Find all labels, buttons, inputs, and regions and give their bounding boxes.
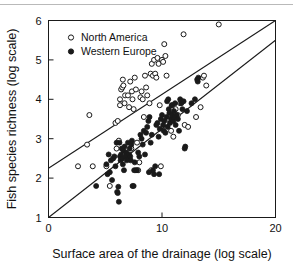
data-point-open bbox=[130, 97, 135, 102]
data-point-filled bbox=[184, 109, 189, 114]
y-tick-label: 2 bbox=[35, 172, 41, 184]
data-point-open bbox=[107, 183, 112, 188]
data-point-filled bbox=[139, 136, 144, 141]
data-point-open bbox=[118, 97, 123, 102]
y-tick-label: 4 bbox=[35, 93, 41, 105]
data-point-filled bbox=[142, 152, 147, 157]
y-axis-title: Fish species richness (log scale) bbox=[5, 29, 19, 210]
data-point-filled bbox=[163, 130, 168, 135]
data-point-filled bbox=[106, 152, 111, 157]
data-point-open bbox=[162, 42, 167, 47]
data-point-open bbox=[144, 85, 149, 90]
x-axis-tick-labels: 01020 bbox=[45, 222, 281, 234]
scatter-plot-svg: 123456 01020 North America Western Europ… bbox=[0, 0, 293, 267]
data-point-open bbox=[76, 164, 81, 169]
data-point-open bbox=[120, 77, 125, 82]
data-point-open bbox=[142, 73, 147, 78]
data-point-filled bbox=[148, 140, 153, 145]
data-point-filled bbox=[121, 168, 126, 173]
figure-container: 123456 01020 North America Western Europ… bbox=[0, 0, 293, 267]
data-point-open bbox=[163, 53, 168, 58]
legend-marker-filled-circle-icon bbox=[68, 49, 73, 54]
data-point-open bbox=[131, 107, 136, 112]
data-point-open bbox=[181, 32, 186, 37]
data-point-filled bbox=[165, 99, 170, 104]
data-point-filled bbox=[129, 138, 134, 143]
data-point-open bbox=[135, 140, 140, 145]
data-point-filled bbox=[144, 130, 149, 135]
data-point-open bbox=[145, 93, 150, 98]
data-point-filled bbox=[120, 162, 125, 167]
data-point-filled bbox=[149, 132, 154, 137]
data-point-filled bbox=[94, 183, 99, 188]
y-tick-label: 3 bbox=[35, 133, 41, 145]
data-point-filled bbox=[145, 124, 150, 129]
data-point-filled bbox=[147, 115, 152, 120]
data-point-open bbox=[115, 118, 120, 123]
x-axis-title: Surface area of the drainage (log scale) bbox=[52, 247, 272, 261]
data-point-filled bbox=[175, 117, 180, 122]
data-point-filled bbox=[173, 122, 178, 127]
data-point-open bbox=[87, 113, 92, 118]
legend-label-western-europe: Western Europe bbox=[81, 45, 157, 57]
data-point-open bbox=[90, 164, 95, 169]
data-point-open bbox=[128, 79, 133, 84]
data-point-open bbox=[198, 105, 203, 110]
data-point-open bbox=[171, 134, 176, 139]
data-point-filled bbox=[196, 75, 201, 80]
data-point-open bbox=[122, 101, 127, 106]
data-point-filled bbox=[157, 172, 162, 177]
data-point-filled bbox=[137, 154, 142, 159]
data-point-filled bbox=[153, 164, 158, 169]
data-point-open bbox=[139, 89, 144, 94]
chart-legend: North America Western Europe bbox=[68, 31, 156, 57]
data-point-filled bbox=[117, 140, 122, 145]
y-tick-label: 6 bbox=[35, 15, 41, 27]
data-point-filled bbox=[173, 101, 178, 106]
data-point-filled bbox=[140, 142, 145, 147]
data-point-open bbox=[140, 97, 145, 102]
data-point-open bbox=[114, 146, 119, 151]
data-point-open bbox=[141, 115, 146, 120]
data-point-filled bbox=[156, 134, 161, 139]
data-point-open bbox=[194, 115, 199, 120]
data-point-open bbox=[154, 75, 159, 80]
data-point-open bbox=[121, 83, 126, 88]
legend-marker-open-circle-icon bbox=[68, 35, 73, 40]
x-axis-ticks bbox=[49, 213, 276, 218]
data-point-open bbox=[85, 142, 90, 147]
data-point-open bbox=[216, 22, 221, 27]
data-point-filled bbox=[132, 168, 137, 173]
data-point-open bbox=[201, 73, 206, 78]
data-point-open bbox=[158, 164, 163, 169]
data-point-open bbox=[161, 59, 166, 64]
data-point-filled bbox=[192, 97, 197, 102]
y-axis-ticks bbox=[49, 21, 54, 218]
data-point-open bbox=[157, 103, 162, 108]
data-point-filled bbox=[104, 162, 109, 167]
data-point-open bbox=[204, 83, 209, 88]
data-point-filled bbox=[183, 144, 188, 149]
x-tick-label: 0 bbox=[45, 222, 51, 234]
data-point-filled bbox=[107, 170, 112, 175]
data-point-filled bbox=[116, 199, 121, 204]
data-point-open bbox=[125, 93, 130, 98]
data-point-open bbox=[133, 87, 138, 92]
data-point-filled bbox=[110, 178, 115, 183]
data-point-filled bbox=[177, 128, 182, 133]
y-tick-label: 1 bbox=[35, 212, 41, 224]
data-point-open bbox=[164, 73, 169, 78]
data-point-filled bbox=[112, 154, 117, 159]
legend-label-north-america: North America bbox=[81, 31, 148, 43]
data-point-filled bbox=[146, 170, 151, 175]
data-point-filled bbox=[152, 172, 157, 177]
data-point-filled bbox=[116, 184, 121, 189]
x-tick-label: 20 bbox=[269, 222, 281, 234]
data-point-filled bbox=[181, 99, 186, 104]
data-point-open bbox=[186, 124, 191, 129]
data-point-filled bbox=[115, 191, 120, 196]
y-tick-label: 5 bbox=[35, 54, 41, 66]
x-tick-label: 10 bbox=[156, 222, 168, 234]
data-point-open bbox=[132, 75, 137, 80]
data-point-filled bbox=[131, 183, 136, 188]
